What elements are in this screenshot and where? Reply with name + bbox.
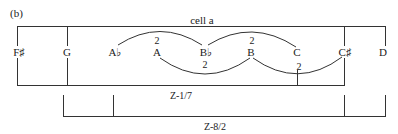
arc-ab-bb (118, 32, 202, 46)
note-a: A (153, 47, 161, 58)
note-a-flat: A♭ (108, 47, 121, 58)
note-c-sharp: C♯ (339, 47, 352, 58)
note-g: G (63, 47, 71, 58)
note-b-flat: B♭ (200, 47, 213, 58)
note-f-sharp: F♯ (13, 47, 25, 58)
z1-label: Z-1/7 (170, 90, 192, 101)
cell-a-label: cell a (190, 15, 214, 26)
z2-label: Z-8/2 (204, 121, 226, 132)
note-b: B (247, 47, 254, 58)
interval-below-bb: 2 (203, 59, 208, 70)
interval-above-a: 2 (155, 35, 160, 46)
note-d: D (379, 47, 387, 58)
interval-below-c: 2 (297, 61, 302, 72)
interval-above-b: 2 (250, 35, 255, 46)
note-c: C (293, 47, 300, 58)
panel-label: (b) (10, 8, 23, 19)
